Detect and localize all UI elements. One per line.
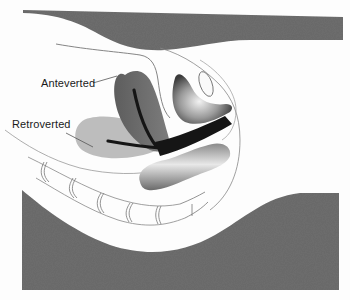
pubic-bone xyxy=(196,70,216,99)
retroverted-label: Retroverted xyxy=(12,119,71,130)
anteverted-label: Anteverted xyxy=(41,78,95,89)
uterine-position-diagram: Anteverted Retroverted xyxy=(0,0,350,300)
body-surface-bottom xyxy=(22,190,339,290)
pelvic-section-illustration xyxy=(0,0,350,300)
anteverted-leader-line xyxy=(93,76,117,83)
body-surface-top xyxy=(23,10,343,50)
